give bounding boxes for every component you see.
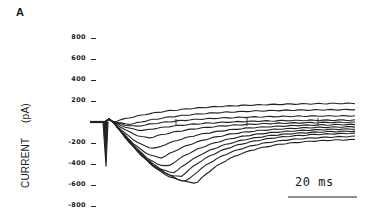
capacitive-transient [103,122,108,166]
traces-group [90,103,355,183]
scale-bar-label: 20 ms [295,175,334,189]
